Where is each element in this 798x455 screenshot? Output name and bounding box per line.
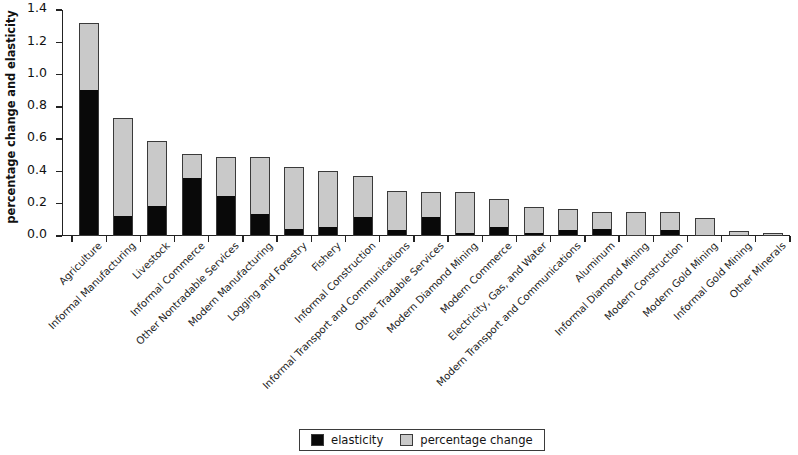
y-axis-tick: 0.4 [56, 171, 62, 172]
y-axis-tick-label: 0.6 [13, 129, 47, 144]
legend-item-percentage-change: percentage change [400, 433, 532, 447]
bar-segment-elasticity [183, 178, 201, 235]
bar-segment-elasticity [148, 206, 166, 235]
bar-segment-elasticity [114, 216, 132, 235]
y-axis-tick-label: 0.8 [13, 97, 47, 112]
bar[interactable] [250, 157, 270, 236]
x-axis-label: Fishery [310, 240, 343, 273]
y-axis-tick: 1.4 [56, 9, 62, 10]
y-axis-tick: 0.6 [56, 138, 62, 139]
legend-label-elasticity: elasticity [331, 433, 383, 447]
bar[interactable] [113, 118, 133, 236]
bar[interactable] [626, 212, 646, 236]
y-axis-tick-label: 0.4 [13, 162, 47, 177]
bar[interactable] [387, 191, 407, 236]
chart-figure: percentage change and elasticity 0.00.20… [0, 0, 798, 455]
bar[interactable] [182, 154, 202, 236]
bar[interactable] [455, 192, 475, 236]
bar-segment-elasticity [456, 233, 474, 235]
bar-segment-elasticity [217, 196, 235, 235]
bar-segment-elasticity [593, 229, 611, 235]
bar[interactable] [353, 176, 373, 236]
bar-segment-elasticity [80, 90, 98, 235]
bar-segment-elasticity [388, 230, 406, 235]
y-axis-tick-label: 1.0 [13, 65, 47, 80]
bar[interactable] [318, 171, 338, 236]
y-axis-tick-label: 0.0 [13, 226, 47, 241]
bar-segment-elasticity [661, 230, 679, 235]
y-axis-tick: 0.2 [56, 203, 62, 204]
legend-label-percentage-change: percentage change [420, 433, 532, 447]
y-axis-tick-label: 1.2 [13, 33, 47, 48]
bar[interactable] [695, 218, 715, 236]
legend-swatch-black-icon [311, 434, 324, 446]
y-axis-tick: 1.0 [56, 74, 62, 75]
bar-segment-elasticity [422, 217, 440, 235]
y-axis-tick: 1.2 [56, 42, 62, 43]
y-axis-line [62, 10, 63, 236]
bar[interactable] [660, 212, 680, 236]
legend-swatch-grey-icon [400, 434, 413, 446]
bar[interactable] [558, 209, 578, 236]
bar-segment-elasticity [490, 227, 508, 235]
bar[interactable] [421, 192, 441, 236]
y-axis-tick: 0.8 [56, 106, 62, 107]
bar[interactable] [524, 207, 544, 236]
bar[interactable] [729, 231, 749, 236]
plot-area: 0.00.20.40.60.81.01.21.4 [62, 10, 790, 236]
y-axis-tick-label: 0.2 [13, 194, 47, 209]
bar-segment-elasticity [559, 230, 577, 235]
bar-segment-elasticity [285, 229, 303, 235]
y-axis-tick-label: 1.4 [13, 0, 47, 15]
bar[interactable] [216, 157, 236, 236]
bar[interactable] [489, 199, 509, 236]
bar[interactable] [592, 212, 612, 236]
bar-segment-elasticity [319, 227, 337, 235]
x-axis-labels: AgricultureInformal ManufacturingLivesto… [62, 238, 798, 398]
bar-segment-elasticity [354, 217, 372, 235]
bar[interactable] [284, 167, 304, 236]
bar-segment-elasticity [251, 214, 269, 235]
bar[interactable] [79, 23, 99, 236]
bar-segment-elasticity [525, 233, 543, 235]
chart-legend: elasticity percentage change [299, 429, 545, 451]
legend-item-elasticity: elasticity [311, 433, 383, 447]
bar[interactable] [147, 141, 167, 236]
bar[interactable] [763, 233, 783, 236]
y-axis-tick: 0.0 [56, 235, 62, 236]
